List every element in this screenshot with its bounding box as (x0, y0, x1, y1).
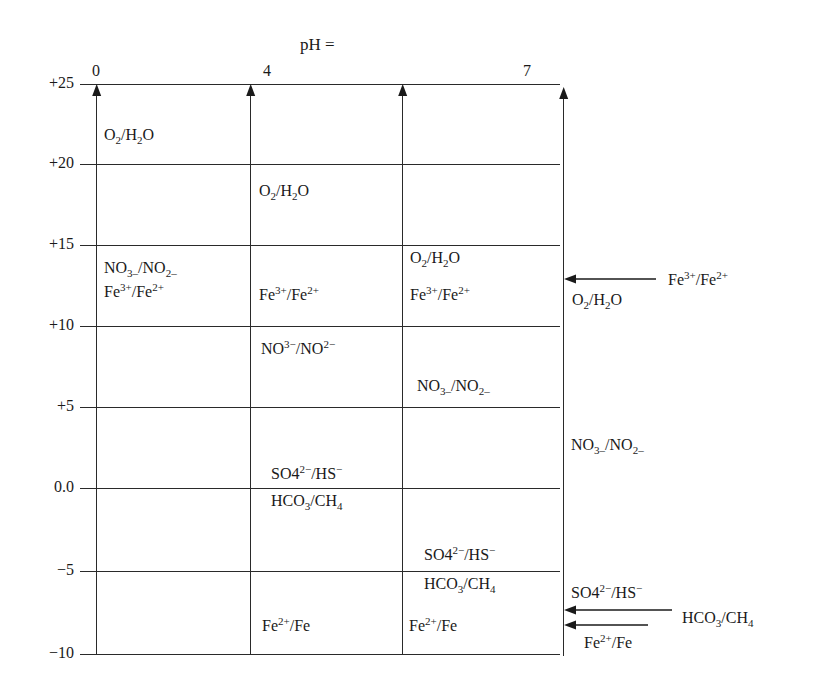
label-r-o2-h2o: O2/H2O (572, 292, 622, 308)
label-r-so4-hs: SO42−/HS− (571, 585, 642, 601)
label-c2-so4-hs: SO42−/HS− (271, 466, 342, 482)
label-r-fe3-fe2: Fe3+/Fe2+ (668, 272, 728, 288)
label-c1-fe3-fe2: Fe3+/Fe2+ (104, 284, 164, 300)
label-c2-fe3-fe2: Fe3+/Fe2+ (259, 287, 319, 303)
label-c3-fe2-fe: Fe2+/Fe (409, 618, 457, 634)
label-c3-so4-hs: SO42−/HS− (424, 547, 495, 563)
arrowhead-up-icon (92, 84, 101, 96)
label-c3-fe3-fe2: Fe3+/Fe2+ (410, 287, 470, 303)
label-r-hco3-ch4: HCO3/CH4 (682, 610, 753, 626)
arrows-overlay (0, 0, 820, 691)
label-c2-o2-h2o: O2/H2O (259, 183, 309, 199)
label-c3-no3-no2: NO3–/NO2– (417, 378, 490, 394)
arrowhead-left-icon (564, 621, 576, 630)
label-r-fe2-fe: Fe2+/Fe (584, 635, 632, 651)
label-c2-no3-no2: NO3−/NO2− (261, 341, 335, 357)
label-r-no3-no2: NO3–/NO2– (571, 437, 644, 453)
arrowhead-left-icon (564, 275, 576, 284)
label-c1-o2-h2o: O2/H2O (104, 127, 154, 143)
arrowhead-up-icon (246, 84, 255, 96)
arrowhead-left-icon (564, 606, 576, 615)
label-c2-fe2-fe: Fe2+/Fe (262, 618, 310, 634)
label-c3-hco3-ch4: HCO3/CH4 (424, 576, 495, 592)
arrowhead-up-icon (559, 87, 568, 99)
arrowhead-up-icon (398, 84, 407, 96)
label-c2-hco3-ch4: HCO3/CH4 (271, 493, 342, 509)
label-c1-no3-no2: NO3–/NO2– (104, 260, 177, 276)
label-c3-o2-h2o: O2/H2O (410, 250, 460, 266)
